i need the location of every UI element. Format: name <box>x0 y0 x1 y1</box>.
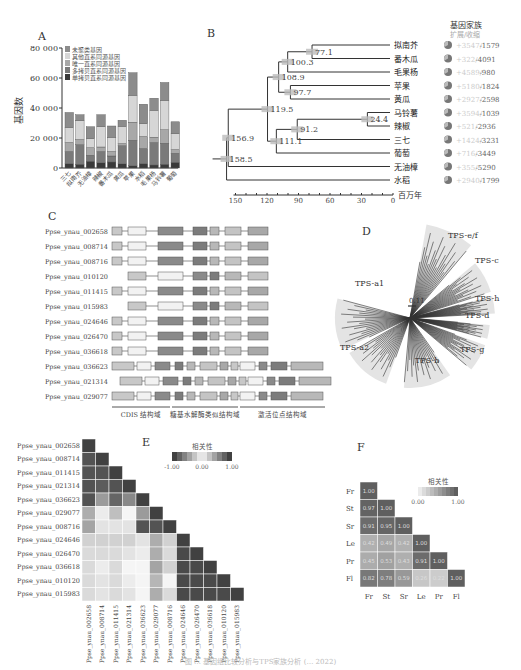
row-label: Pr <box>346 558 355 566</box>
exon-block <box>271 392 287 400</box>
contract-count: -1579 <box>479 42 499 50</box>
legend-swatch <box>65 74 70 80</box>
heatmap-cell <box>96 507 110 521</box>
heatmap-cell <box>82 439 96 453</box>
gene-structure-diagram: Ppse_ynau_002658Ppse_ynau_008714Ppse_yna… <box>0 205 340 415</box>
heatmap-cell <box>123 534 137 548</box>
bar-segment <box>107 137 116 151</box>
heatmap-cell <box>109 493 123 507</box>
exon-block <box>158 227 183 235</box>
clade-label: TPS-e/f <box>448 231 479 240</box>
row-label: Ppse_ynau_008716 <box>17 523 80 531</box>
heatmap-cell <box>136 561 150 575</box>
bar-segment <box>150 165 159 168</box>
exon-block <box>200 362 217 370</box>
cell-value: 1.00 <box>380 505 393 511</box>
axis-tick-label: 150 <box>229 197 242 205</box>
tps-phylogeny: TPS-e/fTPS-cTPS-hTPS-dTPS-gTPS-bTPS-a2TP… <box>330 210 521 400</box>
correlation-heatmap-tissues: Fr1.00FrSt0.971.00StSr0.910.951.00SrLe0.… <box>330 430 521 630</box>
gene-label: Ppse_ynau_010120 <box>45 273 108 281</box>
heatmap-cell <box>82 561 96 575</box>
heatmap-cell <box>150 534 164 548</box>
exon-block <box>137 392 151 400</box>
taxon-label: 拟南芥 <box>394 40 418 50</box>
bar-segment <box>139 164 148 169</box>
legend-swatch <box>65 46 70 52</box>
taxon-label: 水稻 <box>394 175 410 185</box>
bar-segment <box>160 143 169 164</box>
heatmap-cell <box>82 466 96 480</box>
bar-segment <box>118 126 127 143</box>
contract-count: -1799 <box>479 177 499 185</box>
heatmap-cell <box>123 588 137 602</box>
exon-block <box>193 317 207 325</box>
bar-segment <box>76 121 85 140</box>
cell-value: 0.59 <box>398 575 411 581</box>
exon-block <box>240 392 255 400</box>
heatmap-cell <box>136 507 150 521</box>
cell-value: 0.53 <box>380 558 393 564</box>
bar-segment <box>139 137 148 149</box>
contract-count: -1039 <box>479 110 499 118</box>
cell-value: 1.00 <box>363 488 376 494</box>
bar-segment <box>118 146 127 164</box>
clade-label: TPS-a2 <box>340 343 369 352</box>
heatmap-cell <box>217 588 231 602</box>
exon-block <box>112 332 122 340</box>
bar-segment <box>129 73 138 96</box>
exon-block <box>200 392 217 400</box>
exon-block <box>225 227 241 235</box>
exon-block <box>225 287 241 295</box>
exon-block <box>231 362 238 370</box>
row-label: Ppse_ynau_008714 <box>17 455 80 463</box>
row-label: Ppse_ynau_024646 <box>17 536 80 544</box>
bar-segment <box>118 144 127 146</box>
exon-block <box>112 347 122 355</box>
heatmap-cell <box>136 547 150 561</box>
bar-segment <box>150 143 159 166</box>
heatmap-cell <box>82 453 96 467</box>
exon-block <box>248 332 268 340</box>
exon-block <box>112 392 134 400</box>
bar-segment <box>97 127 106 147</box>
col-label: Ppse_ynau_010120 <box>220 605 228 663</box>
row-label: Ppse_ynau_021314 <box>17 482 80 490</box>
bar-segment <box>171 134 180 150</box>
heatmap-cell <box>150 547 164 561</box>
exon-block <box>158 257 183 265</box>
gene-label: Ppse_ynau_036623 <box>45 363 108 371</box>
exon-block <box>193 347 207 355</box>
col-label: Fl <box>453 593 461 601</box>
heatmap-cell <box>163 588 177 602</box>
exon-block <box>259 392 267 400</box>
gene-label: Ppse_ynau_021314 <box>45 378 108 386</box>
col-label: Fr <box>365 593 374 601</box>
exon-block <box>248 257 268 265</box>
clade-label: TPS-h <box>475 294 499 303</box>
exon-block <box>187 362 195 370</box>
exon-block <box>128 332 146 340</box>
exon-block <box>225 257 241 265</box>
exon-block <box>112 317 122 325</box>
correlation-heatmap-genes: Ppse_ynau_002658Ppse_ynau_002658Ppse_yna… <box>0 430 300 660</box>
heatmap-cell <box>82 534 96 548</box>
exon-block <box>210 332 219 340</box>
bar-segment <box>107 152 116 157</box>
clade-label: TPS-b <box>415 356 439 365</box>
cell-value: 0.42 <box>363 540 375 546</box>
legend-swatch <box>65 60 70 66</box>
cell-value: 1.00 <box>433 558 446 564</box>
domain-label: CDIS 结构域 <box>121 410 161 419</box>
bar-segment <box>129 166 138 168</box>
exon-block <box>299 377 331 385</box>
bar-segment <box>65 164 74 169</box>
contract-count: -3449 <box>476 150 496 158</box>
bar-segment <box>171 150 180 154</box>
node-age-label: 111.1 <box>279 137 302 146</box>
heatmap-cell <box>123 480 137 494</box>
exon-block <box>225 302 241 310</box>
cell-value: 0.95 <box>380 523 393 529</box>
exon-block <box>128 317 146 325</box>
heatmap-cell <box>190 561 204 575</box>
exon-block <box>158 287 183 295</box>
